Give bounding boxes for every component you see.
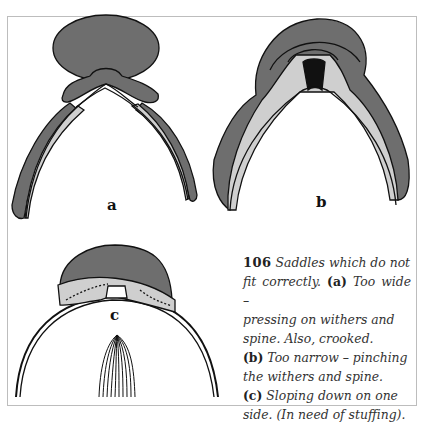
saddle-c-gullet [106, 286, 127, 298]
saddle-a-illustration [12, 15, 197, 218]
caption-tag-a: (a) [327, 274, 347, 289]
caption-tag-b: (b) [243, 350, 263, 365]
figure-label-a: a [107, 196, 117, 214]
caption-line-4: spine. Also, crooked. [243, 329, 411, 348]
caption-line-8: side. (In need of stuffing). [243, 405, 411, 424]
caption-line-1: 106 Saddles which do not [243, 253, 411, 272]
figure-label-c: c [110, 306, 119, 324]
caption-line-3: pressing on withers and [243, 310, 411, 329]
saddle-b-outer [213, 19, 409, 210]
caption-line-5: (b) Too narrow – pinching [243, 348, 411, 367]
figure-number: 106 [243, 255, 272, 270]
figure-label-b: b [316, 193, 327, 211]
caption-line-7: (c) Sloping down on one [243, 386, 411, 405]
caption-line-6: the withers and spine. [243, 367, 411, 386]
saddle-b-illustration [213, 19, 409, 210]
figure-caption: 106 Saddles which do not fit correctly. … [243, 253, 411, 424]
caption-tag-c: (c) [243, 388, 262, 403]
caption-line-2: fit correctly. (a) Too wide – [243, 272, 411, 310]
horse-mane [99, 335, 135, 397]
